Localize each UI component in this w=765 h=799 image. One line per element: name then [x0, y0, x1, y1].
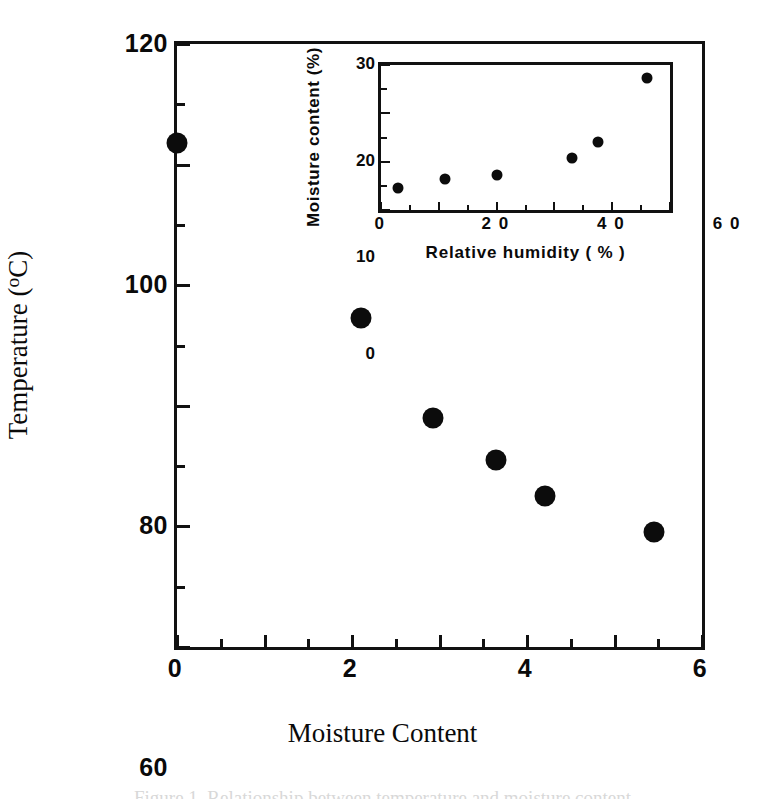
- main-x-tick: 1 0: [614, 635, 617, 647]
- inset-y-minor-tick: [381, 185, 387, 187]
- inset-x-tick: 0: [380, 202, 382, 210]
- figure-root: Temperature (oC) 20406080100120024681 01…: [0, 0, 765, 799]
- main-y-minor-tick: [177, 224, 185, 227]
- inset-y-tick-label: 10: [356, 247, 375, 267]
- inset-data-point: [566, 152, 577, 163]
- main-data-point: [486, 450, 507, 471]
- inset-data-point: [641, 73, 652, 84]
- main-y-tick: 60: [177, 405, 190, 408]
- main-y-tick: 120: [177, 43, 190, 46]
- main-x-tick: 1 2: [701, 635, 704, 647]
- main-x-minor-tick: [220, 639, 223, 647]
- main-y-tick: 40: [177, 525, 190, 528]
- main-y-tick-label: 120: [125, 29, 168, 58]
- main-x-tick-label: 0: [168, 654, 184, 683]
- inset-x-tick-label: 0: [375, 214, 386, 234]
- main-y-tick-label: 60: [139, 752, 168, 781]
- main-y-axis-title-tail: C): [3, 251, 33, 278]
- main-y-tick: 100: [177, 164, 190, 167]
- inset-y-minor-tick: [381, 88, 387, 90]
- main-x-tick-label: 2: [343, 654, 359, 683]
- inset-x-minor-tick: [409, 205, 411, 210]
- main-x-tick-label: 6: [693, 654, 709, 683]
- inset-x-axis-title: Relative humidity ( % ): [378, 243, 673, 263]
- inset-x-tick-label: 4 0: [597, 214, 625, 234]
- inset-x-minor-tick: [582, 205, 584, 210]
- inset-data-point: [592, 137, 603, 148]
- figure-caption: Figure 1. Relationship between temperatu…: [0, 788, 765, 799]
- inset-y-axis-title: Moisture content (%): [304, 47, 324, 227]
- main-data-point: [643, 522, 664, 543]
- main-x-tick: 2: [264, 635, 267, 647]
- main-x-minor-tick: [657, 639, 660, 647]
- main-x-minor-tick: [307, 639, 310, 647]
- main-y-minor-tick: [177, 103, 185, 106]
- inset-x-tick: 8 0: [611, 202, 613, 210]
- inset-data-point: [491, 170, 502, 181]
- main-x-tick-label: 4: [518, 654, 534, 683]
- main-x-tick: 6: [439, 635, 442, 647]
- inset-x-tick: 2 0: [438, 202, 440, 210]
- inset-x-minor-tick: [525, 205, 527, 210]
- inset-y-minor-tick: [381, 137, 387, 139]
- main-y-axis-title: Temperature (oC): [2, 251, 35, 440]
- inset-y-tick-label: 20: [356, 151, 375, 171]
- main-x-minor-tick: [482, 639, 485, 647]
- inset-x-tick: 1 0 0: [669, 202, 671, 210]
- main-x-axis-title: Moisture Content: [0, 718, 765, 749]
- degree-superscript: o: [2, 278, 23, 288]
- inset-x-tick: 4 0: [496, 202, 498, 210]
- inset-y-tick: 0: [381, 209, 390, 211]
- main-x-minor-tick: [395, 639, 398, 647]
- inset-data-point: [393, 183, 404, 194]
- main-data-point: [350, 308, 371, 329]
- inset-plot-area: 010203002 04 06 08 01 0 0: [381, 65, 670, 210]
- inset-y-tick: 20: [381, 112, 390, 114]
- inset-x-minor-tick: [640, 205, 642, 210]
- main-x-tick: 0: [176, 635, 179, 647]
- inset-x-tick: 6 0: [553, 202, 555, 210]
- main-data-point: [534, 486, 555, 507]
- inset-plot-frame: 010203002 04 06 08 01 0 0: [378, 62, 673, 213]
- inset-x-tick-label: 6 0: [713, 214, 741, 234]
- main-data-point: [422, 407, 443, 428]
- main-y-tick: 80: [177, 284, 190, 287]
- main-y-axis-title-text: Temperature (: [3, 287, 33, 439]
- main-y-minor-tick: [177, 586, 185, 589]
- main-y-tick-label: 80: [139, 511, 168, 540]
- inset-x-minor-tick: [467, 205, 469, 210]
- inset-x-tick-label: 2 0: [482, 214, 510, 234]
- main-data-point: [167, 133, 188, 154]
- inset-y-tick-label: 0: [366, 344, 375, 364]
- main-x-minor-tick: [570, 639, 573, 647]
- inset-y-tick-label: 30: [356, 54, 375, 74]
- inset-y-tick: 30: [381, 64, 390, 66]
- main-y-tick-label: 100: [125, 270, 168, 299]
- main-x-tick: 8: [526, 635, 529, 647]
- main-y-minor-tick: [177, 345, 185, 348]
- main-y-minor-tick: [177, 465, 185, 468]
- inset-data-point: [439, 173, 450, 184]
- main-x-tick: 4: [351, 635, 354, 647]
- inset-y-tick: 10: [381, 161, 390, 163]
